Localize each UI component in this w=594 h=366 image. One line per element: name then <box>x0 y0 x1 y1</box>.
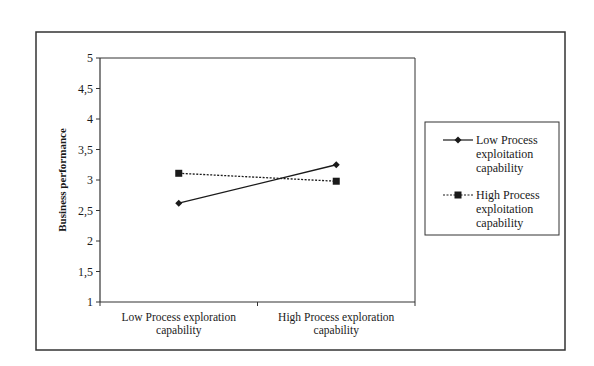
square-marker <box>455 192 462 199</box>
square-marker <box>175 170 182 177</box>
y-tick-label: 1,5 <box>78 265 93 279</box>
y-tick-label: 5 <box>87 51 93 65</box>
y-tick-label: 1 <box>87 295 93 309</box>
y-tick-label: 4 <box>87 112 93 126</box>
x-category-label: capability <box>314 324 360 337</box>
y-tick-label: 2,5 <box>78 204 93 218</box>
x-category-label: Low Process exploration <box>122 311 237 324</box>
legend-label: Low Process <box>476 133 538 147</box>
legend-label: exploitation <box>476 147 533 161</box>
legend-label: capability <box>476 216 523 230</box>
y-tick-label: 2 <box>87 234 93 248</box>
y-tick-label: 3,5 <box>78 143 93 157</box>
legend-label: High Process <box>476 188 540 202</box>
interaction-line-chart: 11,522,533,544,55Low Process exploration… <box>0 0 594 366</box>
square-marker <box>333 178 340 185</box>
legend-label: capability <box>476 161 523 175</box>
legend-label: exploitation <box>476 202 533 216</box>
y-axis-title: Business performance <box>56 128 68 232</box>
x-category-label: capability <box>156 324 202 337</box>
y-tick-label: 3 <box>87 173 93 187</box>
y-tick-label: 4,5 <box>78 82 93 96</box>
x-category-label: High Process exploration <box>278 311 395 324</box>
legend: Low ProcessexploitationcapabilityHigh Pr… <box>425 122 559 235</box>
